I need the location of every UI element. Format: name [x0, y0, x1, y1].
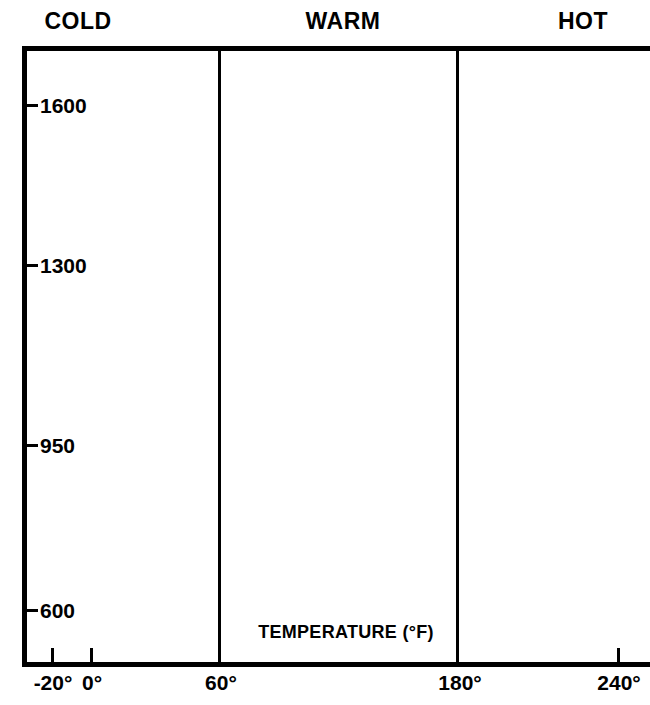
- x-axis-tick-label-60: 60°: [205, 671, 237, 695]
- x-axis-tick-minus20: [51, 648, 54, 667]
- y-axis-tick-1300: [24, 264, 38, 267]
- zone-label-warm: WARM: [306, 6, 381, 36]
- plot-area: [22, 46, 650, 667]
- x-axis-tick-240: [617, 648, 620, 667]
- y-axis-tick-600: [24, 609, 38, 612]
- x-axis-tick-label-0: 0°: [82, 671, 102, 695]
- x-axis-tick-label-minus20: -20°: [34, 671, 73, 695]
- y-axis-tick-950: [24, 444, 38, 447]
- x-axis-tick-0: [90, 648, 93, 667]
- x-axis-title: TEMPERATURE (°F): [258, 621, 434, 643]
- y-axis-tick-1600: [24, 104, 38, 107]
- zone-label-hot: HOT: [558, 6, 608, 36]
- zone-divider-60: [218, 46, 221, 667]
- y-axis-tick-label-1600: 1600: [40, 95, 87, 116]
- y-axis-tick-label-950: 950: [40, 435, 75, 456]
- zone-divider-180: [456, 46, 459, 667]
- y-axis-tick-label-1300: 1300: [40, 255, 87, 276]
- x-axis-tick-label-240: 240°: [597, 671, 640, 695]
- zone-label-cold: COLD: [44, 6, 111, 36]
- x-axis-tick-label-180: 180°: [438, 671, 481, 695]
- temperature-zone-chart: COLD WARM HOT 1600 1300 950 600 -20° 0° …: [0, 0, 650, 705]
- y-axis-tick-label-600: 600: [40, 600, 75, 621]
